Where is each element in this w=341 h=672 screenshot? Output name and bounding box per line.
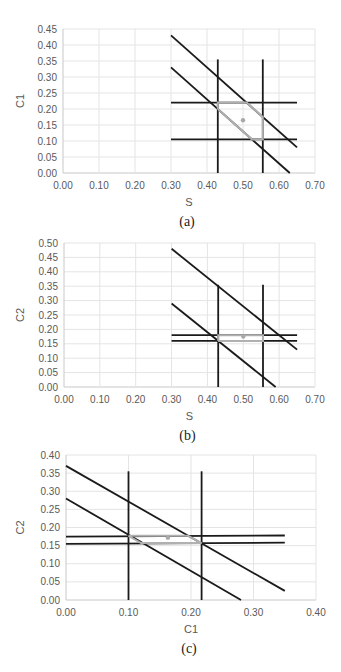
y-axis-label: C2 [14, 520, 26, 534]
x-tick-label: 0.10 [119, 607, 139, 618]
x-tick-label: 0.30 [244, 607, 264, 618]
figure-caption: (c) [181, 641, 197, 657]
lower-diagonal-line [66, 499, 241, 601]
upper-diagonal-line [66, 466, 285, 591]
y-tick-label: 0.40 [41, 450, 61, 461]
chart-panel-c: 0.000.050.100.150.200.250.300.350.400.00… [0, 0, 341, 672]
chart-c: 0.000.050.100.150.200.250.300.350.400.00… [0, 0, 341, 672]
gridlines [66, 455, 316, 600]
y-tick-label: 0.05 [41, 576, 61, 587]
y-tick-label: 0.35 [41, 468, 61, 479]
y-tick-label: 0.25 [41, 504, 61, 515]
y-tick-label: 0.20 [41, 522, 61, 533]
x-axis-label: C1 [184, 623, 198, 635]
y-tick-label: 0.10 [41, 558, 61, 569]
data-point-marker [166, 535, 170, 539]
x-tick-label: 0.40 [306, 607, 326, 618]
x-tick-label: 0.20 [181, 607, 201, 618]
x-tick-label: 0.00 [56, 607, 76, 618]
y-tick-label: 0.30 [41, 486, 61, 497]
y-tick-label: 0.00 [41, 595, 61, 606]
y-tick-label: 0.15 [41, 540, 61, 551]
series [66, 466, 285, 600]
